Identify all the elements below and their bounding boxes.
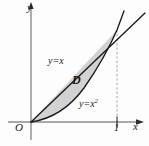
line-equation-label: y=x	[48, 56, 64, 66]
parabola-equation-base: y=x	[79, 98, 95, 109]
x-axis-label: x	[133, 121, 138, 132]
origin-label: O	[15, 122, 23, 133]
math-figure: y x O 1 y=x y=x2 D	[0, 0, 149, 146]
x-tick-label-1: 1	[114, 123, 119, 133]
parabola-equation-exponent: 2	[95, 97, 98, 104]
curve-parabola	[31, 11, 124, 122]
region-label-d: D	[72, 74, 81, 86]
y-axis-label: y	[27, 2, 32, 13]
parabola-equation-label: y=x2	[79, 99, 98, 109]
